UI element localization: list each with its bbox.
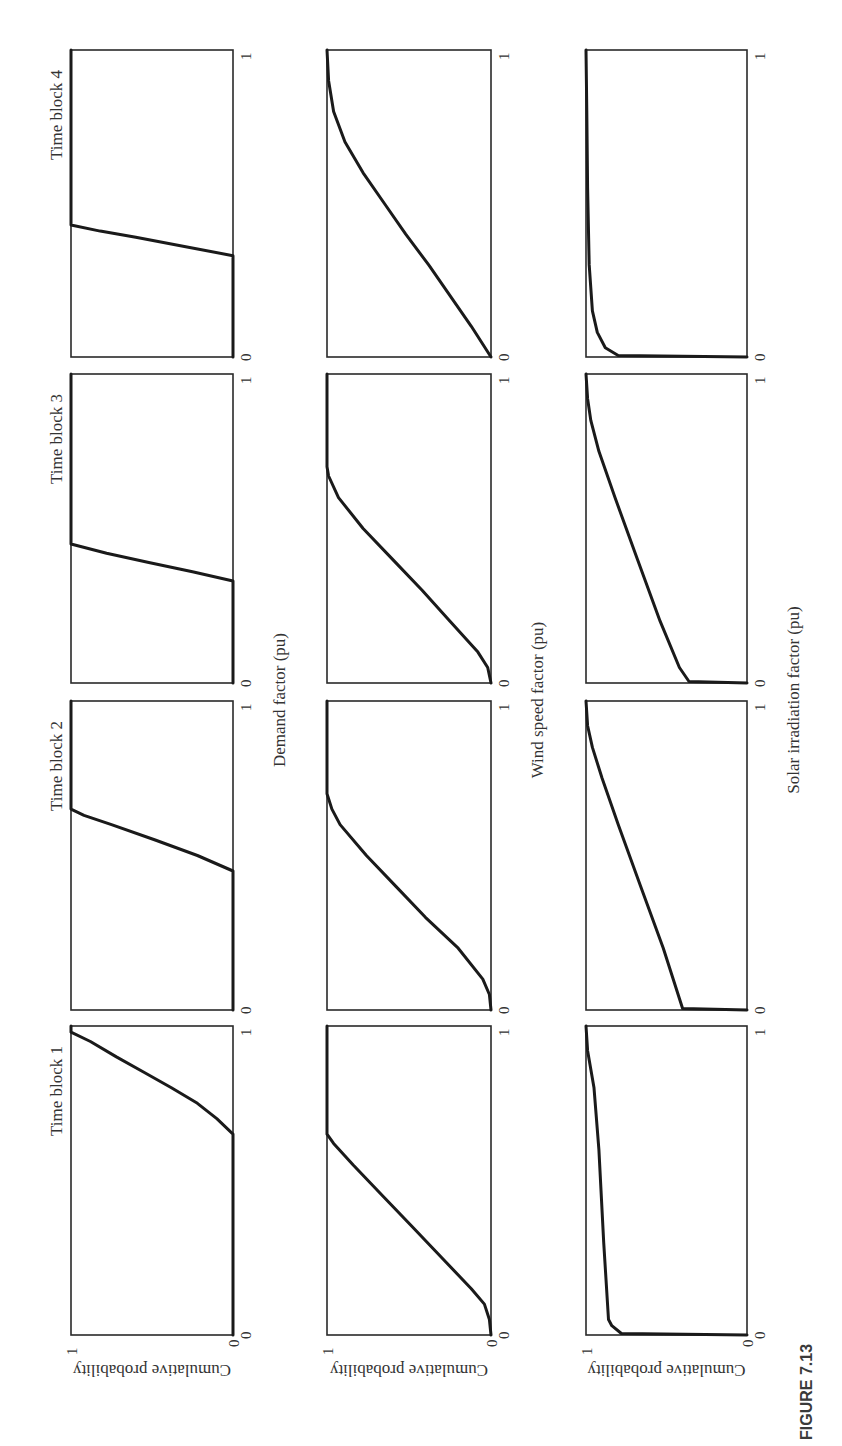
panel-frame [586,1026,747,1335]
panel-frame [327,50,491,357]
cdf-curve [327,701,491,1010]
x-tick-1: 1 [238,377,254,385]
cdf-curve [71,374,233,683]
panel-frame [586,701,747,1010]
panel-wind-speed-time-block-4: 01 [327,50,512,361]
panel-solar-irradiation-time-block-1: 0101Cumulative probability [579,1026,768,1380]
cdf-curve [327,1026,491,1335]
panel-wind-speed-time-block-3: 01 [327,374,512,687]
x-axis-label-solar-irradiation: Solar irradiation factor (pu) [784,606,803,793]
y-tick-0: 0 [226,1340,242,1348]
panel-grid: 0101Cumulative probability0101010101Cumu… [64,50,768,1380]
cdf-curve [327,374,491,683]
x-tick-0: 0 [752,1332,768,1340]
x-tick-1: 1 [496,1029,512,1037]
x-tick-1: 1 [238,704,254,712]
x-axis-label-wind-speed: Wind speed factor (pu) [528,622,547,779]
y-axis-label: Cumulative probability [329,1361,488,1380]
panel-frame [71,374,233,683]
x-tick-1: 1 [238,53,254,61]
x-tick-0: 0 [752,680,768,688]
x-axis-label-demand: Demand factor (pu) [270,633,289,767]
panel-wind-speed-time-block-1: 0101Cumulative probability [320,1026,512,1380]
cdf-curve [586,701,747,1010]
cdf-curve [586,1026,747,1335]
x-tick-0: 0 [496,1007,512,1015]
x-tick-1: 1 [752,53,768,61]
x-tick-1: 1 [752,704,768,712]
panel-frame [71,50,233,357]
x-tick-0: 0 [238,354,254,362]
panel-wind-speed-time-block-2: 01 [327,701,512,1014]
x-tick-0: 0 [238,1007,254,1015]
panel-frame [71,701,233,1010]
y-tick-1: 1 [64,1348,80,1356]
panel-solar-irradiation-time-block-3: 01 [586,374,768,687]
panel-solar-irradiation-time-block-2: 01 [586,701,768,1014]
panel-frame [327,701,491,1010]
figure-caption: FIGURE 7.13 [798,1344,815,1440]
panel-frame [71,1026,233,1335]
cdf-curve [71,1026,233,1335]
panel-solar-irradiation-time-block-4: 01 [586,50,768,361]
time-block-title-3: Time block 3 [47,394,66,484]
time-block-title-4: Time block 4 [47,69,66,160]
panel-frame [586,50,747,357]
x-tick-1: 1 [496,704,512,712]
time-block-title-2: Time block 2 [47,721,66,811]
y-axis-label: Cumulative probability [587,1361,746,1380]
x-tick-0: 0 [496,680,512,688]
x-tick-0: 0 [752,354,768,362]
panel-demand-time-block-4: 01 [71,50,254,361]
x-tick-1: 1 [496,377,512,385]
y-axis-label: Cumulative probability [72,1361,231,1380]
x-tick-0: 0 [752,1007,768,1015]
y-tick-1: 1 [320,1348,336,1356]
cdf-curve [71,701,233,1010]
panel-demand-time-block-1: 0101Cumulative probability [64,1026,254,1380]
x-tick-1: 1 [752,1029,768,1037]
panel-frame [327,1026,491,1335]
time-block-title-1: Time block 1 [47,1046,66,1136]
cdf-curve [586,374,747,683]
figure-labels: Time block 1Time block 2Time block 3Time… [47,69,803,1136]
panel-demand-time-block-3: 01 [71,374,254,687]
x-tick-1: 1 [238,1029,254,1037]
x-tick-0: 0 [496,354,512,362]
y-tick-1: 1 [579,1348,595,1356]
x-tick-1: 1 [496,53,512,61]
x-tick-0: 0 [238,680,254,688]
x-tick-0: 0 [238,1332,254,1340]
x-tick-0: 0 [496,1332,512,1340]
cdf-curve [71,50,233,357]
x-tick-1: 1 [752,377,768,385]
y-tick-0: 0 [740,1340,756,1348]
cdf-curve [586,50,747,357]
cdf-curve [327,50,491,357]
y-tick-0: 0 [484,1340,500,1348]
panel-demand-time-block-2: 01 [71,701,254,1014]
figure-canvas: 0101Cumulative probability0101010101Cumu… [0,0,842,1446]
panel-frame [327,374,491,683]
